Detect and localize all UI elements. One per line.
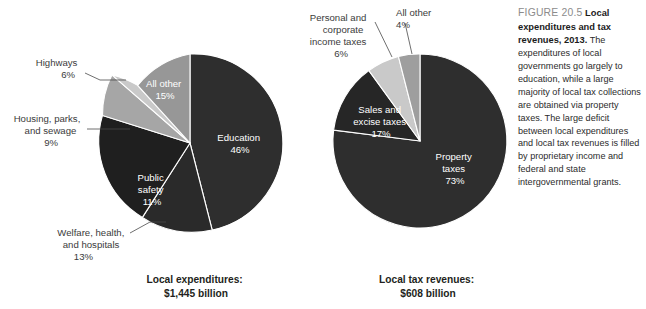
callout-welfare-health-hospitals: Welfare, health, and hospitals 13% (57, 227, 127, 262)
figure-number: FIGURE 20.5 (518, 7, 583, 18)
figure-body-text: The expenditures of local governments go… (518, 35, 641, 187)
callout-personal-corporate-income-taxes: Personal and corporate income taxes 6% (310, 12, 369, 59)
callout-all-other-revenues: All other 4% (396, 7, 434, 30)
callout-housing-parks-sewage: Housing, parks, and sewage 9% (14, 113, 83, 148)
leader-income-taxes (375, 22, 392, 57)
right-pie-chart: Property taxes 73% Sales and excise taxe… (310, 7, 507, 299)
callout-highways: Highways 6% (36, 57, 80, 80)
left-chart-caption: Local expenditures: $1,445 billion (146, 274, 245, 299)
left-pie-chart: Education 46% All other 15% Public safet… (14, 54, 283, 299)
figure-20-5: Education 46% All other 15% Public safet… (0, 0, 646, 309)
right-chart-caption: Local tax revenues: $608 billion (379, 274, 477, 299)
figure-caption-sidebar: FIGURE 20.5 Local expenditures and tax r… (518, 6, 642, 189)
